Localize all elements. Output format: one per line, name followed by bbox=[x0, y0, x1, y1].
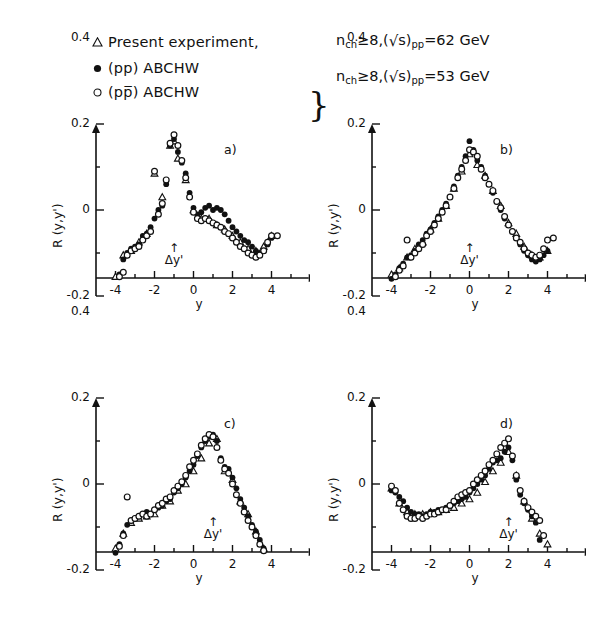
panel-tag: b) bbox=[500, 142, 513, 157]
data-series-ppbar-abchw bbox=[117, 132, 281, 280]
delta-y-prime-label: Δy' bbox=[448, 254, 492, 266]
data-point bbox=[545, 237, 551, 243]
data-point bbox=[167, 140, 173, 146]
data-point bbox=[478, 166, 484, 172]
data-point bbox=[467, 138, 473, 144]
y-tick-label: 0.2 bbox=[334, 116, 366, 130]
data-point bbox=[218, 207, 224, 213]
y-tick-label: 0.4 bbox=[58, 304, 90, 318]
data-point bbox=[237, 500, 243, 506]
s-subscript-62: pp bbox=[412, 39, 425, 50]
radical-icon-62: √ bbox=[389, 32, 399, 50]
y-tick-label: -0.2 bbox=[334, 288, 366, 302]
x-tick-label: 2 bbox=[495, 283, 523, 297]
data-point bbox=[463, 158, 469, 164]
delta-y-prime-label: Δy' bbox=[487, 528, 531, 540]
y-tick-label: 0.4 bbox=[334, 304, 366, 318]
legend-label-0: Present experiment, bbox=[108, 34, 259, 50]
data-point bbox=[269, 233, 275, 239]
x-tick-label: -4 bbox=[378, 283, 406, 297]
data-point bbox=[245, 518, 251, 524]
x-tick-label: 4 bbox=[534, 283, 562, 297]
data-point bbox=[510, 453, 516, 459]
panel-tag: c) bbox=[224, 416, 236, 431]
data-point bbox=[494, 451, 500, 457]
data-point bbox=[156, 211, 162, 217]
delta-y-prime-label: Δy' bbox=[152, 254, 196, 266]
delta-y-prime-marker: ↑Δy' bbox=[448, 242, 492, 266]
data-point bbox=[443, 203, 449, 209]
data-point bbox=[206, 203, 212, 209]
data-point bbox=[191, 209, 197, 215]
s-symbol-62: s bbox=[398, 32, 406, 48]
data-point bbox=[482, 468, 488, 474]
y-axis-label: R (y,y') bbox=[50, 477, 65, 522]
data-point bbox=[253, 533, 259, 539]
x-tick-label: -2 bbox=[417, 283, 445, 297]
figure-legend: Present experiment, (pp) ABCHW (pp̅) ABC… bbox=[86, 30, 556, 108]
data-point bbox=[502, 214, 508, 220]
plot-area bbox=[306, 392, 586, 617]
open-circle-icon bbox=[86, 87, 108, 98]
legend-row-0: Present experiment, bbox=[86, 30, 259, 54]
data-point bbox=[148, 229, 154, 235]
panel-tag: a) bbox=[224, 142, 237, 157]
legend-brace: } bbox=[308, 87, 330, 121]
y-tick-label: 0.2 bbox=[334, 390, 366, 404]
x-tick-label: 4 bbox=[534, 557, 562, 571]
data-point bbox=[175, 143, 181, 149]
x-tick-label: -4 bbox=[102, 283, 130, 297]
data-point bbox=[230, 224, 236, 230]
data-point bbox=[474, 153, 480, 159]
data-point bbox=[447, 194, 453, 200]
x-tick-label: 2 bbox=[495, 557, 523, 571]
nch-symbol-53: n bbox=[336, 68, 345, 84]
x-tick-label: 4 bbox=[258, 283, 286, 297]
x-tick-label: -2 bbox=[141, 283, 169, 297]
data-point bbox=[486, 181, 492, 187]
plot-area bbox=[30, 392, 310, 617]
x-tick-label: 2 bbox=[219, 283, 247, 297]
data-point bbox=[159, 201, 165, 207]
y-axis-arrowhead bbox=[92, 398, 100, 407]
data-point bbox=[432, 222, 438, 228]
data-point bbox=[506, 436, 512, 442]
x-tick-label: 4 bbox=[258, 557, 286, 571]
data-point bbox=[226, 470, 232, 476]
data-point bbox=[393, 274, 399, 280]
data-point bbox=[152, 168, 158, 174]
y-axis-label: R (y,y') bbox=[326, 203, 341, 248]
data-point bbox=[257, 541, 263, 547]
radical-icon-53: √ bbox=[389, 68, 399, 86]
data-point bbox=[234, 492, 240, 498]
data-point bbox=[550, 235, 556, 241]
panel-d: 0.40.20-0.2-4-2024yR (y,y')↑Δy'd) bbox=[306, 392, 586, 617]
data-series-present-experiment bbox=[112, 435, 267, 551]
data-point bbox=[498, 205, 504, 211]
data-point bbox=[428, 229, 434, 235]
y-tick-label: -0.2 bbox=[58, 288, 90, 302]
data-point bbox=[517, 239, 523, 245]
data-point bbox=[494, 199, 500, 205]
data-point bbox=[241, 509, 247, 515]
data-point bbox=[261, 548, 267, 554]
data-point bbox=[183, 175, 189, 181]
legend-row-2: (pp̅) ABCHW bbox=[86, 80, 199, 104]
data-point bbox=[214, 445, 220, 451]
data-point bbox=[167, 494, 173, 500]
data-point bbox=[537, 518, 543, 524]
data-point bbox=[179, 479, 185, 485]
delta-y-prime-marker: ↑Δy' bbox=[487, 516, 531, 540]
x-axis-label: y bbox=[472, 297, 479, 311]
energy-53: =53 GeV bbox=[424, 68, 489, 84]
data-point bbox=[191, 457, 197, 463]
data-point bbox=[237, 233, 243, 239]
data-point bbox=[195, 451, 201, 457]
legend-row-1: (pp) ABCHW bbox=[86, 56, 199, 80]
data-point bbox=[113, 550, 119, 556]
data-point bbox=[435, 216, 441, 222]
x-tick-label: 0 bbox=[180, 557, 208, 571]
delta-y-prime-marker: ↑Δy' bbox=[191, 516, 235, 540]
data-series-pp-abchw bbox=[113, 432, 267, 556]
nch-subscript-53: ch bbox=[345, 75, 357, 86]
